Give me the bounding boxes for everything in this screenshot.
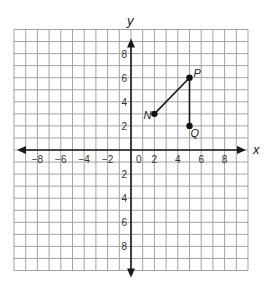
y-axis-label: y (126, 13, 135, 28)
x-tick-label: −6 (55, 154, 67, 165)
x-tick-label: 8 (222, 154, 228, 165)
y-tick-label: 8 (121, 241, 127, 252)
y-tick-label: 6 (121, 73, 127, 84)
y-tick-label: 4 (121, 193, 127, 204)
arrow-down-icon (127, 269, 135, 278)
point-label-n: N (143, 109, 151, 121)
y-tick-label: 8 (121, 49, 127, 60)
x-tick-label: 2 (152, 154, 158, 165)
arrow-up-icon (127, 39, 135, 48)
segment-np (154, 78, 189, 114)
point-n (151, 111, 157, 117)
x-tick-label: 6 (198, 154, 204, 165)
y-tick-label: 4 (121, 97, 127, 108)
point-label-p: P (194, 67, 202, 79)
x-tick-label: 4 (175, 154, 181, 165)
point-p (186, 75, 192, 81)
x-axis-label: x (252, 142, 260, 157)
point-label-q: Q (191, 127, 200, 139)
y-tick-label: 2 (121, 169, 127, 180)
y-tick-label: 6 (121, 217, 127, 228)
origin-label: 0 (136, 154, 142, 165)
arrow-left-icon (17, 146, 26, 154)
x-tick-label: −2 (102, 154, 114, 165)
x-tick-label: −4 (78, 154, 90, 165)
arrow-right-icon (237, 146, 246, 154)
y-tick-label: 2 (121, 121, 127, 132)
coordinate-plane: −8−6−4−2246886422468 NPQ x y 0 (0, 0, 271, 285)
axes (17, 39, 246, 278)
x-tick-label: −8 (32, 154, 44, 165)
